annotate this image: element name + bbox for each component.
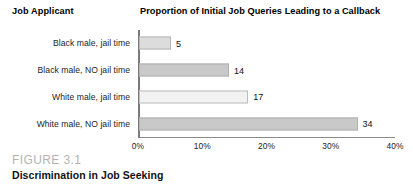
- figure-number: FIGURE 3.1: [12, 153, 402, 167]
- bar-row: Black male, NO jail time 14: [138, 57, 395, 84]
- x-axis-tick-label: 20%: [258, 141, 275, 151]
- figure-caption: FIGURE 3.1 Discrimination in Job Seeking: [12, 153, 402, 182]
- bar: 14: [139, 64, 229, 77]
- category-label: Black male, NO jail time: [38, 65, 130, 75]
- bar: 17: [139, 90, 248, 103]
- column-header-proportion: Proportion of Initial Job Queries Leadin…: [140, 6, 380, 16]
- bar: 5: [139, 37, 171, 50]
- bar-row: Black male, jail time 5: [138, 30, 395, 57]
- bar-value-label: 34: [363, 119, 373, 129]
- figure-title: Discrimination in Job Seeking: [12, 168, 402, 182]
- category-label: White male, NO jail time: [37, 119, 130, 129]
- bar-chart-plot-area: Black male, jail time 5 Black male, NO j…: [138, 30, 395, 137]
- x-axis-line: [138, 137, 395, 138]
- category-label: Black male, jail time: [53, 38, 130, 48]
- bar-row: White male, NO jail time 34: [138, 110, 395, 137]
- bar-value-label: 17: [253, 92, 263, 102]
- column-header-job-applicant: Job Applicant: [12, 6, 74, 16]
- bar-row: White male, jail time 17: [138, 84, 395, 111]
- bar: 34: [139, 117, 358, 130]
- x-axis-tick-label: 0%: [132, 141, 144, 151]
- x-axis-tick-label: 30%: [322, 141, 339, 151]
- figure-3-1: Job Applicant Proportion of Initial Job …: [0, 0, 413, 186]
- bar-value-label: 5: [176, 38, 181, 48]
- category-label: White male, jail time: [52, 92, 130, 102]
- x-axis-tick-label: 40%: [386, 141, 403, 151]
- x-axis-tick-label: 10%: [194, 141, 211, 151]
- bar-value-label: 14: [234, 65, 244, 75]
